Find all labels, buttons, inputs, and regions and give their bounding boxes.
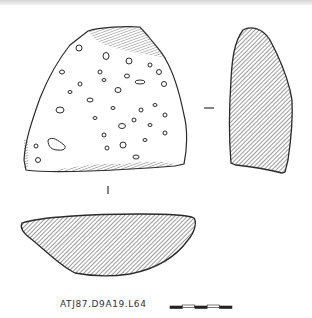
exterior-face-view bbox=[24, 27, 187, 172]
sherd-drawing bbox=[0, 0, 312, 318]
scale-bar-segment bbox=[170, 306, 182, 309]
scale-bar-segment bbox=[220, 306, 232, 309]
catalog-label: ATJ87.D9A19.L64 bbox=[60, 299, 147, 309]
scale-bar bbox=[170, 305, 232, 309]
scale-bar-segment bbox=[182, 305, 194, 308]
scale-bar-segment bbox=[195, 306, 207, 309]
side-section-view bbox=[230, 28, 293, 173]
scale-bar-segment bbox=[207, 305, 219, 308]
exterior-outline bbox=[24, 27, 187, 172]
exterior-left-edge-hatching bbox=[24, 140, 28, 168]
bottom-section-view bbox=[21, 214, 195, 276]
